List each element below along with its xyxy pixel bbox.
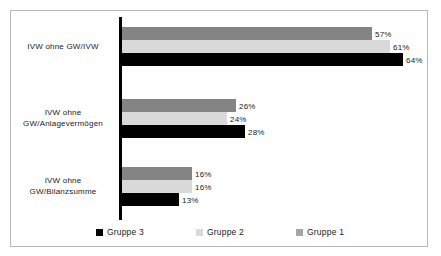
bar-group-ivw-ohne-gw-bilanzsumme: IVW ohne GW/Bilanzsumme 16% 16% 13% bbox=[11, 163, 429, 223]
plot-area: IVW ohne GW/IVW 57% 61% 64% I bbox=[11, 11, 429, 216]
legend-swatch-icon-gruppe-1 bbox=[296, 229, 303, 236]
bar-value-gruppe3-cat1: 64% bbox=[403, 55, 423, 64]
bar-gruppe3-cat2[interactable] bbox=[122, 125, 245, 138]
legend-item-gruppe-3[interactable]: Gruppe 3 bbox=[96, 227, 144, 237]
bar-value-gruppe1-cat3: 16% bbox=[192, 169, 212, 178]
bar-gruppe3-cat1[interactable] bbox=[122, 53, 403, 66]
bar-gruppe3-cat3[interactable] bbox=[122, 193, 179, 206]
chart-frame: IVW ohne GW/IVW 57% 61% 64% I bbox=[10, 10, 428, 247]
category-label-2: IVW ohne GW/Anlagevermögen bbox=[11, 107, 115, 129]
bar-group-ivw-ohne-gw-anlagevermoegen: IVW ohne GW/Anlagevermögen 26% 24% 28% bbox=[11, 95, 429, 155]
legend-item-gruppe-1[interactable]: Gruppe 1 bbox=[296, 227, 344, 237]
category-label-3-line-1: IVW ohne bbox=[11, 175, 115, 186]
legend-swatch-icon-gruppe-2 bbox=[196, 229, 203, 236]
legend-label-gruppe-3: Gruppe 3 bbox=[107, 227, 144, 237]
bar-gruppe2-cat2[interactable] bbox=[122, 112, 227, 125]
chart-container: IVW ohne GW/IVW 57% 61% 64% I bbox=[0, 0, 441, 256]
category-label-3-line-2: GW/Bilanzsumme bbox=[11, 186, 115, 197]
bar-gruppe1-cat2[interactable] bbox=[122, 99, 236, 112]
category-label-3: IVW ohne GW/Bilanzsumme bbox=[11, 175, 115, 197]
category-label-2-line-2: GW/Anlagevermögen bbox=[11, 118, 115, 129]
bar-gruppe2-cat3[interactable] bbox=[122, 180, 192, 193]
bar-group-ivw-ohne-gw-ivw: IVW ohne GW/IVW 57% 61% 64% bbox=[11, 23, 429, 83]
legend-swatch-icon-gruppe-3 bbox=[96, 229, 103, 236]
bar-value-gruppe2-cat2: 24% bbox=[227, 114, 247, 123]
legend-label-gruppe-2: Gruppe 2 bbox=[207, 227, 244, 237]
chart-legend: Gruppe 3 Gruppe 2 Gruppe 1 bbox=[11, 219, 429, 245]
bar-value-gruppe1-cat1: 57% bbox=[372, 29, 392, 38]
bar-gruppe1-cat3[interactable] bbox=[122, 167, 192, 180]
bar-value-gruppe2-cat1: 61% bbox=[390, 42, 410, 51]
bar-value-gruppe2-cat3: 16% bbox=[192, 182, 212, 191]
category-label-1: IVW ohne GW/IVW bbox=[11, 41, 115, 52]
bar-value-gruppe3-cat3: 13% bbox=[179, 195, 199, 204]
legend-label-gruppe-1: Gruppe 1 bbox=[307, 227, 344, 237]
bar-gruppe1-cat1[interactable] bbox=[122, 27, 372, 40]
bar-value-gruppe3-cat2: 28% bbox=[245, 127, 265, 136]
category-label-1-line-1: IVW ohne GW/IVW bbox=[11, 41, 115, 52]
legend-item-gruppe-2[interactable]: Gruppe 2 bbox=[196, 227, 244, 237]
bar-gruppe2-cat1[interactable] bbox=[122, 40, 390, 53]
bar-value-gruppe1-cat2: 26% bbox=[236, 101, 256, 110]
category-label-2-line-1: IVW ohne bbox=[11, 107, 115, 118]
